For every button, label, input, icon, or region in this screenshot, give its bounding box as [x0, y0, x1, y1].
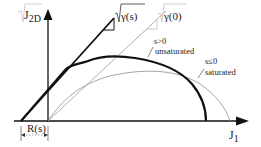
offset-label: R(s) — [27, 122, 46, 135]
x-axis-label: J1 — [229, 128, 239, 144]
svg-text:γ(0): γ(0) — [163, 10, 182, 23]
yield-surface-diagram: R(s) J2D J1 γ(s) γ(0) s>0 unsaturated s≤… — [0, 0, 261, 147]
saturated-leader — [198, 69, 204, 78]
thin-slope-line — [48, 11, 166, 121]
saturated-label: saturated — [205, 67, 236, 77]
unsaturated-curve — [21, 56, 206, 121]
saturated-condition-label: s≤0 — [205, 56, 217, 66]
unsaturated-label: unsaturated — [155, 46, 195, 56]
unsaturated-condition-label: s>0 — [154, 36, 166, 46]
y-axis-label: J2D — [18, 4, 42, 24]
unsaturated-leader — [148, 47, 153, 57]
svg-text:J2D: J2D — [24, 8, 41, 24]
x-axis-arrow-icon — [236, 117, 249, 126]
svg-text:γ(s): γ(s) — [120, 10, 138, 23]
y-axis-arrow-icon — [44, 9, 53, 20]
thick-slope-label: γ(s) — [115, 4, 145, 23]
thin-slope-label: γ(0) — [158, 4, 187, 23]
